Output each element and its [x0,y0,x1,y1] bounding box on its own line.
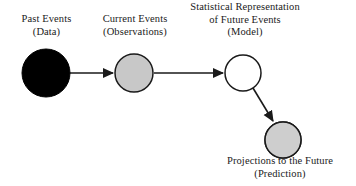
label-past-events-line1: Past Events [0,13,93,26]
label-projections-line2: (Prediction) [204,168,356,181]
label-statistical-model-line1: Statistical Representation [175,1,315,14]
label-past-events-line2: (Data) [0,26,93,39]
label-current-events-line1: Current Events [84,13,186,26]
diagram-canvas-root: Past Events (Data) Current Events (Obser… [0,0,356,186]
node-current-events [115,54,153,92]
label-statistical-model: Statistical Representation of Future Eve… [175,1,315,39]
arrow-model-to-projections [253,88,273,121]
label-current-events-line2: (Observations) [84,26,186,39]
node-projections-group [263,120,303,160]
label-projections-line1: Projections to the Future [204,155,356,168]
node-past-events [22,49,70,97]
speckle-texture [263,120,303,160]
node-statistical-model [225,55,261,91]
label-past-events: Past Events (Data) [0,13,93,38]
label-statistical-model-line2: of Future Events [175,14,315,27]
label-projections: Projections to the Future (Prediction) [204,155,356,180]
label-statistical-model-line3: (Model) [175,26,315,39]
label-current-events: Current Events (Observations) [84,13,186,38]
